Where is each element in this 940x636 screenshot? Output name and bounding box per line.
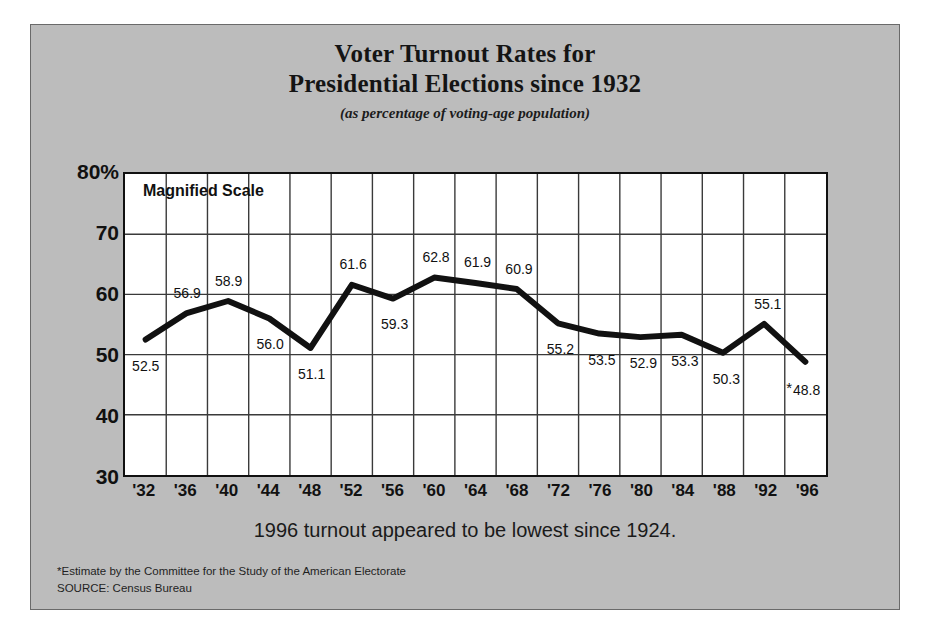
- chart-title-line-1: Voter Turnout Rates for: [31, 39, 899, 69]
- x-axis-tick: '92: [754, 481, 777, 501]
- x-axis-tick: '32: [132, 481, 155, 501]
- x-axis-tick: '72: [547, 481, 570, 501]
- x-axis-tick: '88: [713, 481, 736, 501]
- data-point-label: 53.5: [588, 352, 615, 368]
- y-axis-tick: 40: [57, 404, 119, 428]
- chart-title-line-2: Presidential Elections since 1932: [31, 69, 899, 99]
- y-axis-tick: 30: [57, 465, 119, 489]
- x-axis-tick-labels: '32'36'40'44'48'52'56'60'64'68'72'76'80'…: [123, 481, 828, 507]
- chart-plot-svg: [125, 174, 826, 475]
- data-point-label: 53.3: [671, 353, 698, 369]
- x-axis-tick: '80: [630, 481, 653, 501]
- x-axis-tick: '76: [588, 481, 611, 501]
- chart-title-block: Voter Turnout Rates for Presidential Ele…: [31, 39, 899, 124]
- data-point-label: 52.9: [630, 355, 657, 371]
- data-point-label: 58.9: [215, 273, 242, 289]
- y-axis-tick: 70: [57, 221, 119, 245]
- chart-footnotes: *Estimate by the Committee for the Study…: [57, 563, 657, 597]
- vertical-gridlines: [166, 174, 785, 475]
- plot-area: Magnified Scale 52.556.958.956.051.161.6…: [123, 172, 828, 477]
- data-point-label: 59.3: [381, 316, 408, 332]
- x-axis-tick: '68: [505, 481, 528, 501]
- data-point-label: 52.5: [132, 358, 159, 374]
- data-point-label: 61.9: [464, 254, 491, 270]
- data-point-label: 55.2: [547, 341, 574, 357]
- x-axis-tick: '52: [340, 481, 363, 501]
- y-axis-tick: 60: [57, 282, 119, 306]
- footnote-source: SOURCE: Census Bureau: [57, 580, 657, 597]
- turnout-data-line: [146, 278, 806, 362]
- x-axis-tick: '84: [671, 481, 694, 501]
- data-point-label: 60.9: [505, 261, 532, 277]
- y-axis-tick-labels: 80%7060504030: [45, 172, 119, 477]
- y-axis-tick: 80%: [57, 160, 119, 184]
- x-axis-tick: '56: [381, 481, 404, 501]
- estimate-asterisk: *: [786, 379, 792, 396]
- x-axis-tick: '44: [257, 481, 280, 501]
- data-point-label: 51.1: [298, 366, 325, 382]
- data-point-label: 56.0: [257, 336, 284, 352]
- x-axis-tick: '36: [174, 481, 197, 501]
- x-axis-tick: '40: [215, 481, 238, 501]
- chart-caption: 1996 turnout appeared to be lowest since…: [31, 519, 899, 542]
- chart-figure-panel: Voter Turnout Rates for Presidential Ele…: [30, 24, 900, 610]
- data-point-label: 56.9: [174, 285, 201, 301]
- data-point-label: 62.8: [422, 249, 449, 265]
- data-point-label: 50.3: [713, 371, 740, 387]
- y-axis-tick: 50: [57, 343, 119, 367]
- data-point-label: 55.1: [754, 296, 781, 312]
- x-axis-tick: '64: [464, 481, 487, 501]
- x-axis-tick: '60: [423, 481, 446, 501]
- data-point-label: *48.8: [786, 379, 820, 398]
- x-axis-tick: '48: [298, 481, 321, 501]
- x-axis-tick: '96: [796, 481, 819, 501]
- footnote-estimate: *Estimate by the Committee for the Study…: [57, 563, 657, 580]
- data-point-label: 61.6: [339, 256, 366, 272]
- magnified-scale-annotation: Magnified Scale: [143, 182, 264, 200]
- chart-subtitle: (as percentage of voting-age population): [31, 102, 899, 124]
